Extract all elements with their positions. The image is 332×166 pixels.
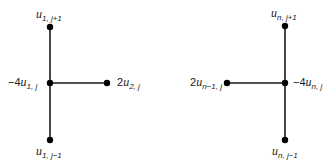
label-left-top: u1, j+1 bbox=[36, 8, 62, 23]
node-left-center bbox=[47, 80, 53, 86]
label-right-bottom: un, j−1 bbox=[272, 145, 298, 160]
label-right-left: 2un−1, j bbox=[190, 76, 222, 91]
node-left-top bbox=[47, 24, 53, 30]
label-right-center: −4un, j bbox=[293, 76, 322, 91]
node-right-top bbox=[282, 23, 288, 29]
node-left-bottom bbox=[47, 137, 53, 143]
right-stencil bbox=[224, 23, 288, 143]
label-left-right: 2u2, j bbox=[117, 76, 140, 91]
node-right-left bbox=[224, 80, 230, 86]
node-right-center bbox=[282, 80, 288, 86]
label-left-center: −4u1, j bbox=[8, 76, 37, 91]
left-stencil bbox=[47, 24, 110, 143]
node-right-bottom bbox=[282, 137, 288, 143]
label-right-top: un, j+1 bbox=[271, 7, 297, 22]
stencil-diagram bbox=[0, 0, 332, 166]
label-left-bottom: u1, j−1 bbox=[36, 145, 62, 160]
node-left-right bbox=[104, 80, 110, 86]
